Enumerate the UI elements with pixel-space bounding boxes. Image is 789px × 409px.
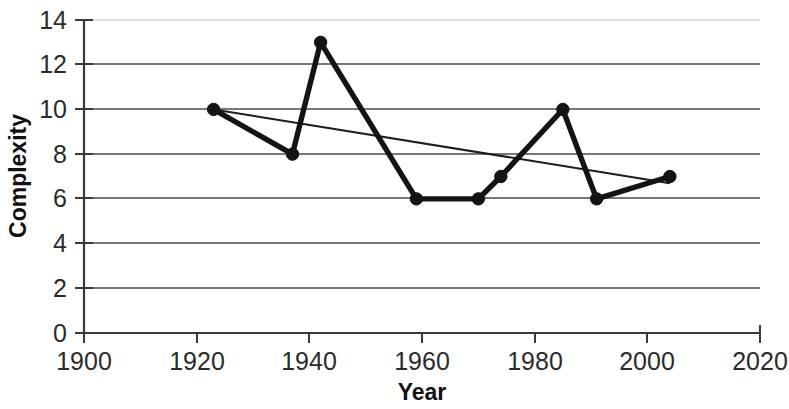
x-tick-label-1940: 1940 (281, 347, 337, 375)
data-point-marker (410, 193, 422, 205)
data-point-marker (664, 170, 676, 182)
y-axis-title: Complexity (5, 114, 31, 238)
y-tick-label-14: 14 (39, 6, 67, 34)
x-tick-label-1980: 1980 (507, 347, 563, 375)
data-point-marker (314, 36, 326, 48)
y-tick-label-12: 12 (39, 50, 67, 78)
x-tick-label-1960: 1960 (394, 347, 450, 375)
x-tick-label-1920: 1920 (169, 347, 225, 375)
chart-container: 14 12 10 8 6 4 2 0 1900 1920 1940 1960 1… (0, 0, 789, 409)
y-tick-label-2: 2 (53, 274, 67, 302)
data-point-marker (590, 193, 602, 205)
data-point-marker (207, 103, 219, 115)
data-point-marker (286, 148, 298, 160)
y-tick-label-8: 8 (53, 140, 67, 168)
data-point-marker (472, 193, 484, 205)
y-tick-label-6: 6 (53, 184, 67, 212)
y-tick-label-0: 0 (53, 319, 67, 347)
data-point-marker (557, 103, 569, 115)
x-axis-title: Year (398, 379, 447, 405)
plot-area-background (84, 20, 760, 333)
y-tick-label-4: 4 (53, 229, 67, 257)
x-tick-label-2000: 2000 (619, 347, 675, 375)
x-axis-tick-labels: 1900 1920 1940 1960 1980 2000 2020 (56, 347, 788, 375)
y-axis-tick-labels: 14 12 10 8 6 4 2 0 (39, 6, 67, 347)
x-tick-label-2020: 2020 (732, 347, 788, 375)
data-point-marker (495, 170, 507, 182)
complexity-vs-year-line-chart: 14 12 10 8 6 4 2 0 1900 1920 1940 1960 1… (0, 0, 789, 409)
x-tick-label-1900: 1900 (56, 347, 112, 375)
y-tick-label-10: 10 (39, 95, 67, 123)
